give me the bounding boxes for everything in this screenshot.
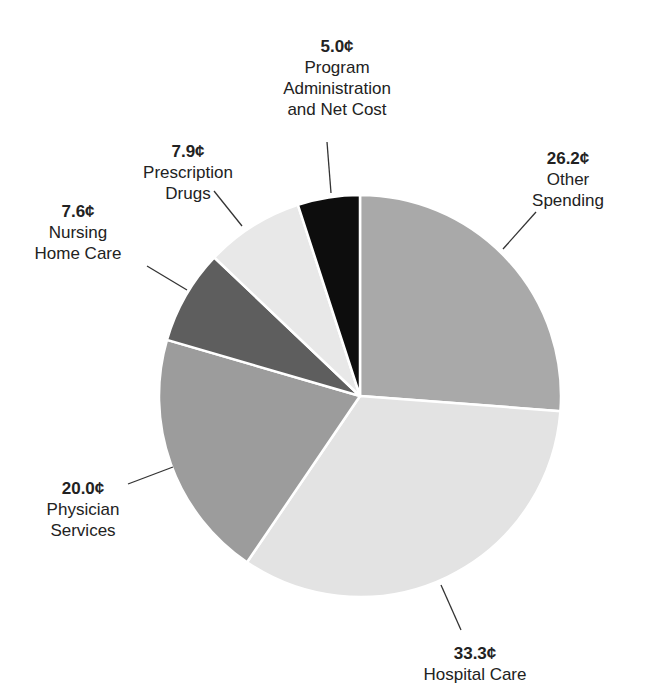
label-nursing-home-care: 7.6¢ Nursing Home Care (22, 201, 134, 264)
label-text: Program (262, 57, 412, 78)
label-text: Prescription (132, 162, 244, 183)
label-physician-services: 20.0¢ Physician Services (28, 478, 138, 541)
label-other-spending: 26.2¢ Other Spending (508, 148, 628, 211)
label-text: Home Care (22, 243, 134, 264)
label-text: Drugs (132, 183, 244, 204)
label-program-administration: 5.0¢ Program Administration and Net Cost (262, 36, 412, 120)
leader-line-hospital (441, 585, 461, 630)
pie-slice-other-spending (360, 195, 561, 411)
label-text: and Net Cost (262, 99, 412, 120)
label-value: 7.9¢ (132, 141, 244, 162)
label-text: Spending (508, 190, 628, 211)
label-text: Hospital Care (410, 664, 540, 685)
label-value: 5.0¢ (262, 36, 412, 57)
label-text: Services (28, 520, 138, 541)
label-hospital-care: 33.3¢ Hospital Care (410, 643, 540, 685)
label-text: Physician (28, 499, 138, 520)
pie-slices (159, 195, 561, 597)
label-text: Nursing (22, 222, 134, 243)
label-text: Other (508, 169, 628, 190)
leader-line-nursing (147, 266, 187, 290)
label-value: 7.6¢ (22, 201, 134, 222)
label-value: 33.3¢ (410, 643, 540, 664)
label-text: Administration (262, 78, 412, 99)
label-prescription-drugs: 7.9¢ Prescription Drugs (132, 141, 244, 204)
leader-line-other (503, 212, 536, 249)
leader-line-admin (327, 142, 331, 193)
label-value: 26.2¢ (508, 148, 628, 169)
label-value: 20.0¢ (28, 478, 138, 499)
